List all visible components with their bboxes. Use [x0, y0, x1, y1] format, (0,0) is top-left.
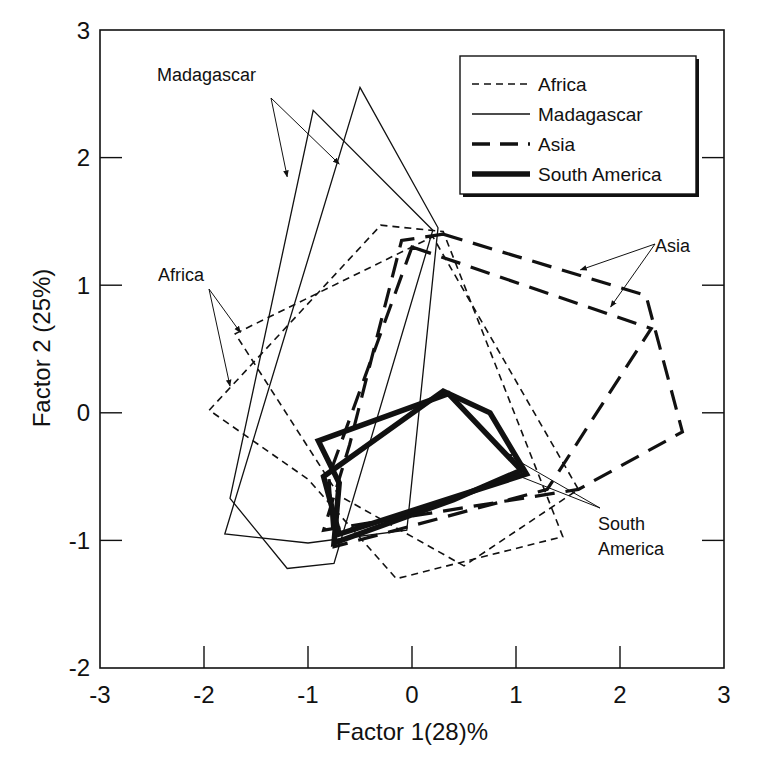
x-tick-label: 0 [405, 681, 418, 708]
annotation-arrow [271, 98, 287, 177]
x-tick-label: -1 [297, 681, 318, 708]
annotation-asia: Asia [655, 236, 691, 256]
x-tick-label: 1 [509, 681, 522, 708]
annotation-arrow [611, 244, 655, 307]
x-tick-label: 3 [717, 681, 730, 708]
y-tick-label: 1 [77, 272, 90, 299]
y-tick-label: -1 [69, 527, 90, 554]
legend-label-asia: Asia [538, 134, 575, 155]
legend: Africa Madagascar Asia South America [460, 56, 699, 197]
x-axis-title: Factor 1(28)% [336, 718, 488, 745]
x-tick-label: -3 [89, 681, 110, 708]
y-tick-label: -2 [69, 654, 90, 681]
legend-label-madagascar: Madagascar [538, 104, 643, 125]
y-tick-label: 0 [77, 399, 90, 426]
y-tick-label: 3 [77, 17, 90, 44]
legend-label-africa: Africa [538, 74, 587, 95]
polygon-asia-2 [329, 247, 651, 547]
annotation-arrow [271, 98, 339, 164]
y-tick-label: 2 [77, 144, 90, 171]
annotation-madagascar: Madagascar [157, 65, 256, 85]
legend-label-south-america: South America [538, 164, 662, 185]
x-tick-label: -2 [193, 681, 214, 708]
annotation-south-america-line1: South [598, 514, 645, 534]
annotation-arrow [580, 244, 655, 270]
annotation-south-america-line2: America [598, 539, 665, 559]
biplot-chart: -3 -2 -1 0 1 2 3 -2 -1 0 1 2 3 Factor 1(… [0, 0, 758, 764]
x-tick-labels: -3 -2 -1 0 1 2 3 [89, 681, 730, 708]
annotation-africa: Africa [158, 265, 205, 285]
annotation-arrow [514, 474, 600, 508]
y-tick-labels: -2 -1 0 1 2 3 [69, 17, 90, 681]
x-ticks [204, 646, 620, 668]
x-tick-label: 2 [613, 681, 626, 708]
y-axis-title: Factor 2 (25%) [28, 269, 55, 428]
